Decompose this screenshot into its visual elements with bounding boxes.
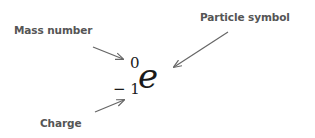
charge-arrow-icon (95, 100, 124, 112)
arrows-layer (0, 0, 315, 138)
particle-symbol-arrow-icon (174, 32, 228, 67)
mass-number-arrow-icon (93, 47, 123, 59)
